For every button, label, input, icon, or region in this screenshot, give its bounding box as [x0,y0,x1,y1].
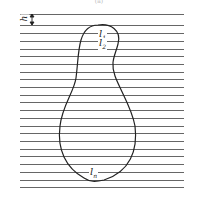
h-dimension-marker [30,14,34,25]
chord-label-l2: l2 [98,38,107,50]
spacing-label-h: h [20,15,29,23]
chord-label-ln: ln [89,167,98,179]
